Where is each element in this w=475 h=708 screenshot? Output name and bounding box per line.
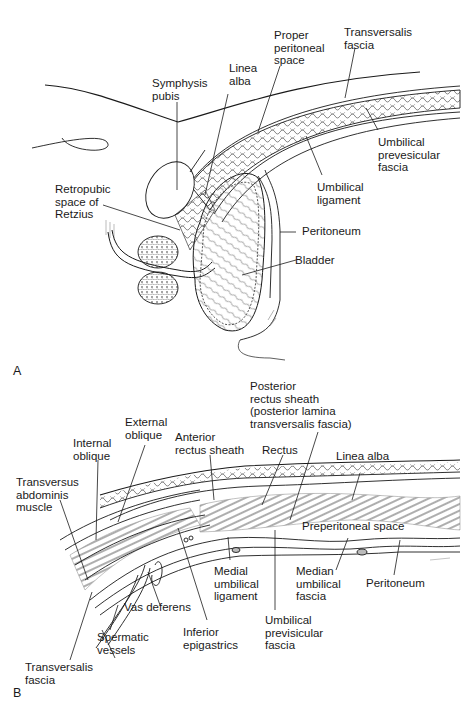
label-transversalis-fascia-b: Transversalis fascia xyxy=(25,661,93,686)
label-transversus-abdominis: Transversus abdominis muscle xyxy=(16,476,79,514)
label-anterior-rectus-sheath: Anterior rectus sheath xyxy=(175,431,244,456)
label-proper-peritoneal-space: Proper peritoneal space xyxy=(274,29,325,67)
label-median-umbilical-fascia: Median umbilical fascia xyxy=(296,565,341,603)
panel-letter-b: B xyxy=(13,686,21,700)
label-external-oblique: External oblique xyxy=(125,416,167,441)
label-linea-alba-b: Linea alba xyxy=(336,450,389,463)
label-vas-deferens: Vas deferens xyxy=(124,601,191,614)
label-peritoneum-a: Peritoneum xyxy=(302,225,361,238)
label-umbilical-prevesicular-fascia: Umbilical prevesicular fascia xyxy=(378,136,440,174)
label-linea-alba-a: Linea alba xyxy=(229,62,257,87)
label-umbilical-previsicular-fascia: Umbilical previsicular fascia xyxy=(265,614,323,652)
label-retropubic-space: Retropubic space of Retzius xyxy=(55,183,111,221)
label-peritoneum-b: Peritoneum xyxy=(366,577,425,590)
label-transversalis-fascia-a: Transversalis fascia xyxy=(344,26,412,51)
label-spermatic-vessels: Spermatic vessels xyxy=(97,631,149,656)
label-symphysis-pubis: Symphysis pubis xyxy=(152,77,208,102)
label-umbilical-ligament: Umbilical ligament xyxy=(317,181,364,206)
label-inferior-epigastrics: Inferior epigastrics xyxy=(183,626,238,651)
panel-letter-a: A xyxy=(13,364,21,378)
panel-b-drawing xyxy=(60,460,460,648)
label-bladder: Bladder xyxy=(295,254,335,267)
label-internal-oblique: Internal oblique xyxy=(73,437,111,462)
label-medial-umbilical-ligament: Medial umbilical ligament xyxy=(214,565,259,603)
label-preperitoneal-space: Preperitoneal space xyxy=(302,520,404,533)
label-rectus: Rectus xyxy=(262,444,298,457)
label-posterior-rectus-sheath: Posterior rectus sheath (posterior lamin… xyxy=(250,380,352,430)
